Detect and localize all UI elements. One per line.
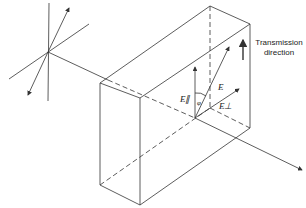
transmission-line1: Transmission [252,38,306,48]
e-label: E [218,83,224,92]
transmission-label: Transmission direction [252,38,306,58]
angle-label: φ [197,100,201,107]
e-perp-label: E⊥ [219,102,233,111]
beam-exit [195,118,302,170]
polarizer-diagram [0,0,306,208]
beam-incident [48,52,108,80]
angle-arc [195,93,206,96]
transmission-line2: direction [252,48,306,58]
unpolarized-light-symbol [9,3,89,101]
e-parallel-label: E∥ [180,95,191,104]
